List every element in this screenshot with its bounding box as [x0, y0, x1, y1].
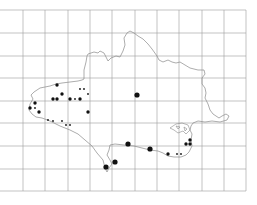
record-dot — [55, 83, 58, 86]
record-dot — [134, 92, 139, 97]
record-dot — [78, 97, 81, 100]
record-dot — [180, 153, 182, 155]
record-dot — [125, 141, 130, 146]
map-grid — [0, 10, 246, 191]
distribution-map — [0, 0, 257, 205]
record-dot — [176, 153, 178, 155]
record-dot — [184, 142, 187, 145]
record-dot — [47, 119, 49, 121]
harbour-outline — [170, 123, 190, 134]
record-dot — [86, 110, 89, 113]
record-dot — [83, 88, 85, 90]
record-dot — [166, 152, 169, 155]
record-dot — [55, 97, 58, 100]
record-dot — [79, 88, 81, 90]
record-dot — [188, 138, 191, 141]
record-dot — [68, 97, 71, 100]
record-dot — [74, 98, 76, 100]
record-dot — [87, 93, 89, 95]
record-dot — [28, 106, 31, 109]
record-dot — [69, 124, 71, 126]
record-dot — [103, 164, 108, 169]
record-dot — [65, 124, 67, 126]
record-dot — [60, 92, 63, 95]
record-dot — [33, 101, 36, 104]
record-dots — [28, 83, 191, 169]
record-dot — [34, 107, 36, 109]
record-dot — [37, 110, 40, 113]
map-canvas — [0, 0, 257, 205]
record-dot — [61, 120, 63, 122]
county-outline — [29, 31, 229, 172]
record-dot — [52, 120, 54, 122]
record-dot — [188, 142, 191, 145]
record-dot — [147, 146, 152, 151]
record-dot — [51, 97, 54, 100]
record-dot — [112, 159, 117, 164]
